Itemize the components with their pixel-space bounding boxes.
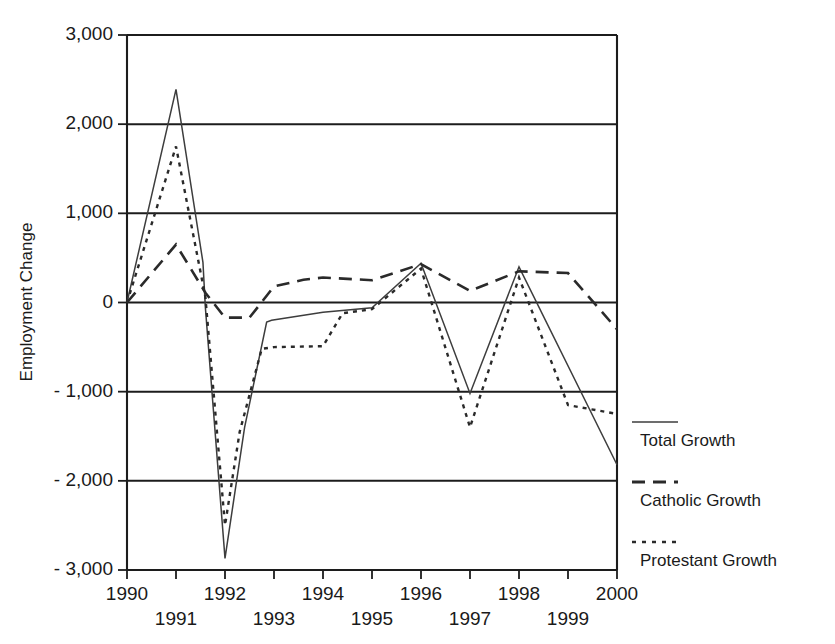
y-tick-label: - 3,000 [54,558,113,579]
legend-label: Protestant Growth [640,551,777,570]
x-tick-label: 1999 [547,608,589,629]
x-tick-label: 1991 [155,608,197,629]
y-tick-label: 1,000 [65,201,113,222]
x-tick-label: 1997 [449,608,491,629]
x-tick-label: 1994 [302,583,345,604]
y-tick-label: - 2,000 [54,469,113,490]
y-axis-tick-labels: 3,0002,0001,0000- 1,000- 2,000- 3,000 [54,23,113,579]
x-tick-label: 2000 [596,583,638,604]
x-tick-label: 1992 [204,583,246,604]
series-line-protestant-growth [127,146,617,525]
x-tick-label: 1996 [400,583,442,604]
legend-label: Total Growth [640,431,735,450]
legend-item: Catholic Growth [632,482,761,510]
y-axis-title: Employment Change [17,223,36,382]
y-tick-label: 2,000 [65,112,113,133]
legend-item: Total Growth [632,422,735,450]
data-series-group [127,89,617,558]
y-tick-label: 3,000 [65,23,113,44]
x-tick-marks-group [127,570,617,579]
chart-legend: Total GrowthCatholic GrowthProtestant Gr… [632,422,777,570]
x-axis-tick-labels: 1990199119921993199419951996199719981999… [106,583,638,629]
x-tick-label: 1998 [498,583,540,604]
legend-item: Protestant Growth [632,542,777,570]
y-tick-marks-group [118,35,127,570]
series-line-total-growth [127,89,617,558]
employment-change-chart: 3,0002,0001,0000- 1,000- 2,000- 3,000 19… [0,0,835,644]
x-tick-label: 1990 [106,583,148,604]
x-tick-label: 1995 [351,608,393,629]
legend-label: Catholic Growth [640,491,761,510]
x-tick-label: 1993 [253,608,295,629]
chart-canvas: 3,0002,0001,0000- 1,000- 2,000- 3,000 19… [0,0,835,644]
gridlines-group [127,35,617,570]
y-tick-label: - 1,000 [54,380,113,401]
y-tick-label: 0 [102,291,113,312]
